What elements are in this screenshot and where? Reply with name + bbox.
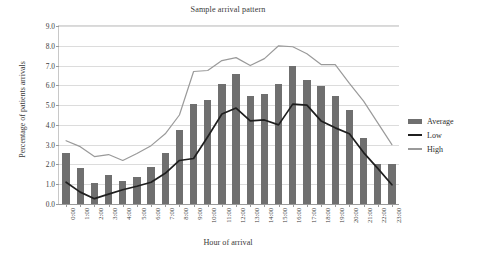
x-tick-mark xyxy=(349,204,350,207)
line-series-low xyxy=(66,104,392,199)
y-tick-label: 2.0 xyxy=(46,160,55,169)
y-tick-label: 8.0 xyxy=(46,41,55,50)
x-tick-mark xyxy=(123,204,124,207)
legend-swatch-icon xyxy=(408,134,422,136)
x-tick-label: 15:00 xyxy=(281,208,288,223)
legend-item-low[interactable]: Low xyxy=(408,128,494,142)
x-tick-mark xyxy=(151,204,152,207)
line-series-high xyxy=(66,46,392,161)
chart-legend: AverageLowHigh xyxy=(408,114,494,156)
y-tick-mark xyxy=(56,204,59,205)
legend-swatch-icon xyxy=(408,148,422,150)
x-tick-mark xyxy=(321,204,322,207)
plot-area: 0.01.02.03.04.05.06.07.08.09.0 0:001:002… xyxy=(58,25,399,204)
y-tick-label: 5.0 xyxy=(46,101,55,110)
x-tick-mark xyxy=(208,204,209,207)
legend-label: Average xyxy=(427,117,454,126)
y-tick-label: 6.0 xyxy=(46,81,55,90)
y-axis-label: Percentage of patients arrivals xyxy=(18,30,27,190)
x-tick-mark xyxy=(293,204,294,207)
x-tick-label: 7:00 xyxy=(168,208,175,220)
x-tick-mark xyxy=(364,204,365,207)
x-tick-mark xyxy=(279,204,280,207)
legend-label: High xyxy=(427,145,443,154)
legend-label: Low xyxy=(427,131,442,140)
x-tick-mark xyxy=(179,204,180,207)
x-tick-mark xyxy=(80,204,81,207)
x-tick-mark xyxy=(165,204,166,207)
x-tick-label: 23:00 xyxy=(395,208,402,223)
x-tick-label: 11:00 xyxy=(225,208,232,223)
x-tick-mark xyxy=(222,204,223,207)
x-axis-label: Hour of arrival xyxy=(58,238,398,247)
x-tick-label: 21:00 xyxy=(366,208,373,223)
y-tick-label: 9.0 xyxy=(46,22,55,31)
y-tick-label: 0.0 xyxy=(46,200,55,209)
x-tick-label: 10:00 xyxy=(210,208,217,223)
x-tick-label: 18:00 xyxy=(324,208,331,223)
y-tick-label: 7.0 xyxy=(46,61,55,70)
x-tick-mark xyxy=(392,204,393,207)
x-tick-label: 19:00 xyxy=(338,208,345,223)
y-tick-label: 1.0 xyxy=(46,180,55,189)
x-tick-mark xyxy=(378,204,379,207)
x-axis-line xyxy=(59,204,399,205)
x-tick-mark xyxy=(307,204,308,207)
x-tick-label: 2:00 xyxy=(97,208,104,220)
x-tick-mark xyxy=(236,204,237,207)
legend-swatch-icon xyxy=(408,119,422,124)
x-tick-mark xyxy=(194,204,195,207)
chart-figure: Sample arrival pattern Percentage of pat… xyxy=(0,0,496,259)
x-tick-label: 1:00 xyxy=(83,208,90,220)
x-tick-label: 6:00 xyxy=(154,208,161,220)
y-tick-label: 4.0 xyxy=(46,120,55,129)
x-tick-label: 12:00 xyxy=(239,208,246,223)
chart-title: Sample arrival pattern xyxy=(58,5,398,14)
legend-item-high[interactable]: High xyxy=(408,142,494,156)
x-tick-mark xyxy=(94,204,95,207)
x-tick-label: 17:00 xyxy=(310,208,317,223)
x-tick-label: 16:00 xyxy=(295,208,302,223)
x-tick-mark xyxy=(109,204,110,207)
x-tick-label: 8:00 xyxy=(182,208,189,220)
x-tick-label: 20:00 xyxy=(352,208,359,223)
x-tick-mark xyxy=(250,204,251,207)
x-tick-label: 4:00 xyxy=(125,208,132,220)
x-tick-mark xyxy=(335,204,336,207)
x-tick-mark xyxy=(264,204,265,207)
x-tick-label: 22:00 xyxy=(380,208,387,223)
line-series-group xyxy=(59,26,399,204)
x-tick-label: 14:00 xyxy=(267,208,274,223)
x-tick-label: 3:00 xyxy=(111,208,118,220)
x-tick-mark xyxy=(66,204,67,207)
y-tick-label: 3.0 xyxy=(46,140,55,149)
legend-item-average[interactable]: Average xyxy=(408,114,494,128)
x-tick-label: 13:00 xyxy=(253,208,260,223)
x-tick-label: 9:00 xyxy=(196,208,203,220)
x-tick-mark xyxy=(137,204,138,207)
x-tick-label: 5:00 xyxy=(140,208,147,220)
x-tick-label: 0:00 xyxy=(69,208,76,220)
